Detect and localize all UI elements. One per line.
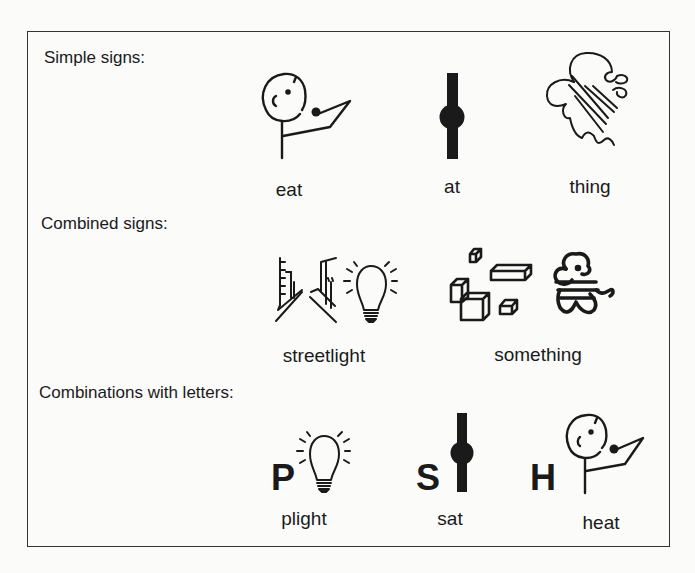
person-eating-icon (567, 415, 643, 493)
s-bar-sign: S (416, 413, 474, 498)
section-label-combinations-with-letters: Combinations with letters: (39, 383, 234, 403)
word-eat: eat (276, 179, 302, 201)
squiggle-thing-icon (547, 53, 627, 145)
word-thing: thing (569, 176, 610, 198)
bar-with-dot-icon (440, 73, 465, 159)
word-at: at (444, 176, 460, 198)
lightbulb-icon (344, 262, 397, 322)
street-icon (276, 258, 336, 322)
lightbulb-icon (297, 432, 350, 492)
letter-s: S (416, 457, 440, 498)
h-person-sign: H (530, 415, 643, 498)
section-label-combined-signs: Combined signs: (41, 214, 168, 234)
word-heat: heat (583, 512, 620, 534)
blocks-and-thing-icon (451, 249, 613, 320)
sign-illustrations: P S H (0, 0, 695, 573)
word-something: something (494, 344, 582, 366)
letter-p: P (271, 457, 295, 498)
street-and-lightbulb-icon (276, 258, 397, 322)
word-sat: sat (437, 508, 462, 530)
blocks-icon (451, 249, 531, 320)
person-eating-icon (263, 74, 350, 158)
bar-with-dot-icon (451, 413, 474, 492)
section-label-simple-signs: Simple signs: (44, 48, 145, 68)
p-lightbulb-sign: P (271, 432, 350, 498)
word-streetlight: streetlight (283, 345, 365, 367)
letter-h: H (530, 457, 556, 498)
word-plight: plight (281, 508, 326, 530)
squiggle-thing-icon (555, 254, 613, 313)
